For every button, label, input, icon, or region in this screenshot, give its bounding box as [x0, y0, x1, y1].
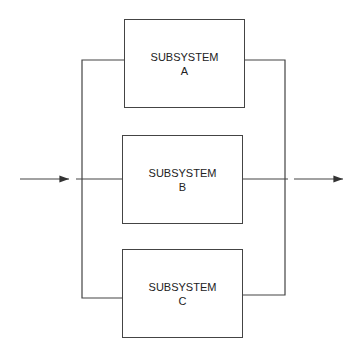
right-bus	[243, 60, 285, 295]
subsystem-b-label: B	[179, 180, 186, 194]
subsystem-a-block: SUBSYSTEM A	[124, 19, 245, 108]
subsystem-c-label: C	[179, 294, 187, 308]
subsystem-c-title: SUBSYSTEM	[149, 280, 217, 294]
subsystem-c-block: SUBSYSTEM C	[122, 249, 243, 338]
subsystem-b-block: SUBSYSTEM B	[122, 135, 243, 224]
subsystem-b-title: SUBSYSTEM	[149, 166, 217, 180]
subsystem-a-title: SUBSYSTEM	[151, 50, 219, 64]
subsystem-a-label: A	[181, 64, 188, 78]
